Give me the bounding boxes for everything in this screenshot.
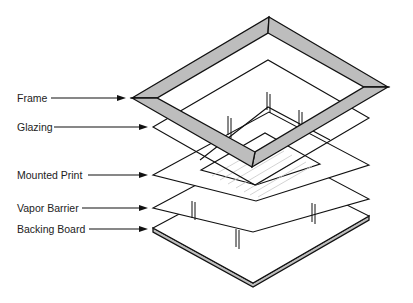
frame-side-top-left bbox=[132, 17, 269, 98]
label-frame: Frame bbox=[17, 92, 126, 104]
arrow-head-icon bbox=[139, 205, 148, 211]
label-backing-board: Backing Board bbox=[17, 223, 148, 235]
frame-assembly-diagram: Frame Glazing Mounted Print Vapor Barrie… bbox=[0, 0, 413, 303]
label-backing-board-text: Backing Board bbox=[17, 223, 85, 235]
label-vapor-barrier: Vapor Barrier bbox=[17, 202, 148, 214]
label-frame-text: Frame bbox=[17, 92, 47, 104]
arrow-head-icon bbox=[139, 226, 148, 232]
label-mounted-print-text: Mounted Print bbox=[17, 169, 82, 181]
arrow-head-icon bbox=[117, 95, 126, 101]
label-glazing-text: Glazing bbox=[17, 121, 53, 133]
arrow-head-icon bbox=[139, 172, 148, 178]
label-mounted-print: Mounted Print bbox=[17, 169, 148, 181]
arrow-head-icon bbox=[139, 124, 148, 130]
label-vapor-barrier-text: Vapor Barrier bbox=[17, 202, 79, 214]
label-glazing: Glazing bbox=[17, 121, 148, 133]
frame-side-top-right bbox=[268, 17, 388, 87]
